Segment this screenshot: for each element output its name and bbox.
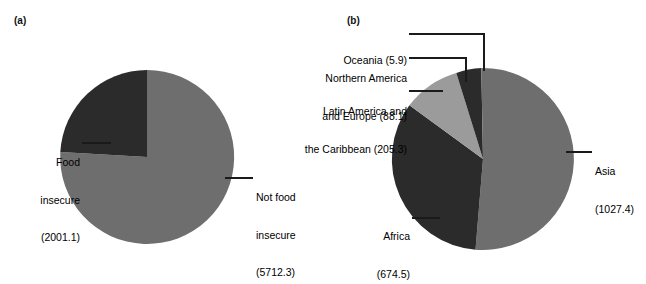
label-asia-line1: Asia: [595, 165, 643, 178]
label-latin-america: Latin America and the Caribbean (205.3): [275, 80, 407, 180]
label-not-food-insecure-line1: Not food: [256, 191, 348, 204]
label-africa-line1: Africa: [352, 230, 410, 243]
label-africa-value: (674.5): [352, 268, 410, 281]
label-latin-america-line2: the Caribbean (205.3): [275, 143, 407, 156]
leader-line-oceania: [409, 34, 484, 71]
label-asia: Asia (1027.4): [595, 140, 643, 240]
panel-b-label: (b): [347, 15, 360, 26]
slice-asia[interactable]: [476, 68, 574, 250]
label-food-insecure: Food insecure (2001.1): [18, 131, 80, 269]
label-not-food-insecure: Not food insecure (5712.3): [256, 166, 348, 284]
label-not-food-insecure-value: (5712.3): [256, 266, 348, 279]
label-asia-value: (1027.4): [595, 203, 643, 216]
label-not-food-insecure-line2: insecure: [256, 229, 348, 242]
label-latin-america-line1: Latin America and: [275, 105, 407, 118]
label-food-insecure-line2: insecure: [18, 194, 80, 207]
panel-a-pie: [60, 70, 253, 244]
label-africa: Africa (674.5): [352, 205, 410, 284]
panel-a-label: (a): [14, 15, 26, 26]
label-food-insecure-value: (2001.1): [18, 231, 80, 244]
label-food-insecure-line1: Food: [18, 156, 80, 169]
panel-b-pie: [392, 34, 592, 250]
